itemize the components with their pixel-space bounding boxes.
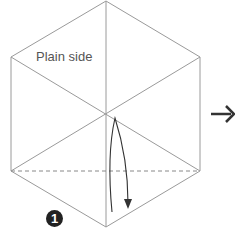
- crease-lines: [11, 1, 200, 227]
- hexagon-diagram: [0, 0, 235, 235]
- side-label: Plain side: [36, 49, 92, 64]
- curved-fold-arrow: [110, 118, 128, 212]
- next-step-arrow-icon: [211, 106, 234, 122]
- step-number-badge: 1: [46, 210, 63, 227]
- curved-arrow-head: [124, 199, 132, 209]
